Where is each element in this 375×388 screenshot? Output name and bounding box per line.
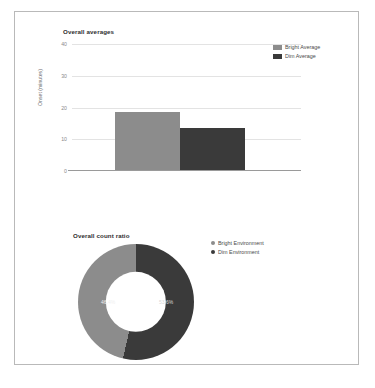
legend-dot-icon-bright	[211, 241, 215, 245]
gridline-40	[72, 44, 301, 45]
y-tick-0: 0	[64, 168, 67, 174]
legend-label-dim-average: Dim Average	[285, 53, 316, 59]
y-tick-30: 30	[61, 73, 67, 79]
donut-chart-graphic: 46.4% 53.6%	[78, 244, 194, 360]
legend-label-bright-average: Bright Average	[285, 44, 320, 50]
y-tick-20: 20	[61, 105, 67, 111]
donut-chart-panel: Overall count ratio 46.4% 53.6% Bright E…	[15, 208, 360, 364]
legend-dot-icon-dim	[211, 250, 215, 254]
donut-chart-title: Overall count ratio	[73, 232, 130, 239]
bar-chart-legend: Bright Average Dim Average	[273, 44, 320, 62]
report-page: Overall averages Onset (minutes) 40 30 2…	[14, 11, 359, 365]
legend-item-dim-average[interactable]: Dim Average	[273, 53, 320, 59]
bar-chart-panel: Overall averages Onset (minutes) 40 30 2…	[15, 18, 360, 198]
bar-chart-title: Overall averages	[63, 28, 114, 35]
x-axis-line	[68, 170, 301, 171]
legend-label-bright-environment: Bright Environment	[218, 240, 264, 246]
y-tick-10: 10	[61, 136, 67, 142]
donut-slice-label-bright: 46.4%	[101, 299, 115, 305]
donut-chart-legend: Bright Environment Dim Environment	[211, 240, 264, 258]
bar-chart-y-axis-label: Onset (minutes)	[37, 69, 43, 106]
donut-slice-label-dim: 53.6%	[159, 299, 173, 305]
legend-swatch-icon-dim	[273, 54, 282, 59]
gridline-30	[72, 76, 301, 77]
legend-item-bright-average[interactable]: Bright Average	[273, 44, 320, 50]
bar-dim-average[interactable]	[180, 128, 245, 171]
gridline-20	[72, 108, 301, 109]
bar-chart-plot-area: 40 30 20 10 0	[72, 44, 301, 171]
bar-bright-average[interactable]	[115, 112, 180, 171]
legend-item-dim-environment[interactable]: Dim Environment	[211, 249, 264, 255]
y-tick-40: 40	[61, 41, 67, 47]
legend-label-dim-environment: Dim Environment	[218, 249, 259, 255]
legend-item-bright-environment[interactable]: Bright Environment	[211, 240, 264, 246]
legend-swatch-icon-bright	[273, 45, 282, 50]
